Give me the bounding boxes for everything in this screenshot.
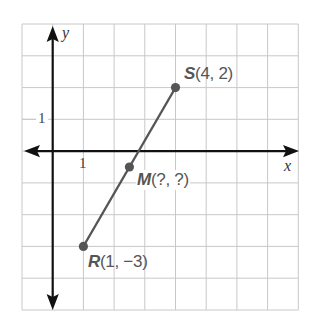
point-r-coords: (1, −3) (100, 252, 148, 271)
x-axis (24, 145, 299, 157)
y-axis (47, 26, 59, 310)
point-m (125, 162, 134, 171)
point-s-name: S (184, 64, 195, 83)
y-axis-label: y (62, 24, 69, 42)
point-m-name: M (137, 170, 151, 189)
point-s (171, 83, 180, 92)
point-r-name: R (88, 252, 100, 271)
point-s-coords: (4, 2) (195, 64, 233, 83)
coordinate-plane (0, 0, 316, 324)
point-s-label: S(4, 2) (184, 64, 233, 84)
point-r-label: R(1, −3) (88, 252, 148, 272)
x-tick-label: 1 (79, 155, 87, 172)
point-r (79, 242, 88, 251)
point-m-coords: (?, ?) (151, 170, 189, 189)
x-axis-label: x (284, 157, 291, 175)
point-m-label: M(?, ?) (136, 170, 190, 190)
grid-lines (22, 24, 298, 310)
y-tick-label: 1 (36, 110, 48, 127)
